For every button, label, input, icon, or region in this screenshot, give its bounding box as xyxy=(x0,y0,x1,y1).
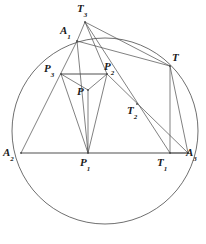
point-label-A2-subscript: 2 xyxy=(10,155,14,163)
point-label-T1-subscript: 1 xyxy=(164,165,168,173)
figure-canvas xyxy=(0,0,206,244)
point-label-A2: A2 xyxy=(3,147,14,161)
point-label-A1: A1 xyxy=(60,25,71,39)
point-label-P: P xyxy=(77,86,84,97)
vertex-A2 xyxy=(20,152,22,154)
vertex-T xyxy=(169,65,171,67)
point-label-T2-subscript: 2 xyxy=(134,113,138,121)
point-label-P3: P3 xyxy=(44,63,54,77)
point-label-P2: P2 xyxy=(104,61,114,75)
point-label-A1-subscript: 1 xyxy=(67,33,71,41)
segment-layer xyxy=(21,22,188,153)
segment-A1-T3 xyxy=(77,22,85,41)
segment-T3-T1 xyxy=(85,22,170,153)
vertex-P1 xyxy=(87,152,89,154)
vertex-T3 xyxy=(84,21,86,23)
geometry-figure: T3A1TP3P2PT2A2P1T1A3 xyxy=(0,0,206,244)
point-label-T1: T1 xyxy=(157,157,167,171)
point-label-P2-subscript: 2 xyxy=(111,69,115,77)
point-label-P1: P1 xyxy=(80,157,90,171)
point-label-T: T xyxy=(172,52,179,63)
segment-P2-P1 xyxy=(88,74,107,153)
vertex-layer xyxy=(20,21,189,154)
segment-T3-T xyxy=(85,22,170,66)
point-label-T2: T2 xyxy=(127,105,137,119)
vertex-P xyxy=(87,89,89,91)
point-label-A3-subscript: 3 xyxy=(193,155,197,163)
segment-T-A3 xyxy=(170,66,188,153)
vertex-A1 xyxy=(76,40,78,42)
segment-P-P2 xyxy=(88,74,107,90)
vertex-P3 xyxy=(60,73,62,75)
point-label-P1-subscript: 1 xyxy=(87,165,91,173)
segment-P2-A3 xyxy=(107,74,188,153)
point-label-T3-subscript: 3 xyxy=(84,11,88,19)
point-label-T3: T3 xyxy=(77,3,87,17)
vertex-T1 xyxy=(169,152,171,154)
point-label-P3-subscript: 3 xyxy=(51,71,55,79)
point-label-A3: A3 xyxy=(186,147,197,161)
